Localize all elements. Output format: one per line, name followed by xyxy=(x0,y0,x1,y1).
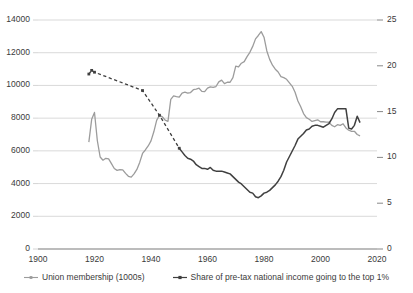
legend-label-top1-share: Share of pre-tax national income going t… xyxy=(191,272,389,282)
series-line-top1-share-dashed xyxy=(89,70,179,148)
series-marker-top1-share xyxy=(87,73,90,76)
x-axis-tick-label: 2000 xyxy=(301,255,341,264)
line-marker-icon xyxy=(24,273,38,282)
chart-container: 02000400060008000100001200014000 0510152… xyxy=(0,0,413,293)
x-axis-tick-label: 1940 xyxy=(131,255,171,264)
x-axis-tick-label: 1900 xyxy=(18,255,58,264)
legend-item-top1-share[interactable]: Share of pre-tax national income going t… xyxy=(173,272,389,282)
y-axis-right-tick-label: 15 xyxy=(387,107,396,116)
gridlines xyxy=(38,20,377,249)
y-axis-left-tick-label: 14000 xyxy=(0,15,30,24)
axis-ticks xyxy=(33,20,383,249)
y-axis-right-tick-label: 25 xyxy=(387,15,396,24)
series-marker-top1-share xyxy=(158,114,161,117)
y-axis-left-tick-label: 6000 xyxy=(0,146,30,155)
legend-label-union-membership: Union membership (1000s) xyxy=(42,272,145,282)
x-axis-tick-label: 2020 xyxy=(357,255,397,264)
y-axis-left-tick-label: 0 xyxy=(0,244,30,253)
y-axis-right-tick-label: 5 xyxy=(387,198,392,207)
legend-item-union-membership[interactable]: Union membership (1000s) xyxy=(24,272,145,282)
y-axis-right-tick-label: 20 xyxy=(387,61,396,70)
series-marker-top1-share xyxy=(141,89,144,92)
chart-plot-area xyxy=(0,0,413,293)
chart-legend: Union membership (1000s) Share of pre-ta… xyxy=(0,268,413,286)
series-marker-top1-share xyxy=(90,69,93,72)
series-marker-top1-share xyxy=(93,71,96,74)
y-axis-left-tick-label: 2000 xyxy=(0,211,30,220)
data-series xyxy=(87,32,360,198)
x-axis-tick-label: 1960 xyxy=(188,255,228,264)
y-axis-right-tick-label: 0 xyxy=(387,244,392,253)
y-axis-left-tick-label: 12000 xyxy=(0,48,30,57)
y-axis-right-tick-label: 10 xyxy=(387,152,396,161)
series-line-union-membership xyxy=(89,32,360,178)
y-axis-left-tick-label: 4000 xyxy=(0,179,30,188)
series-line-top1-share xyxy=(179,109,360,198)
x-axis-tick-label: 1980 xyxy=(244,255,284,264)
y-axis-left-tick-label: 10000 xyxy=(0,80,30,89)
line-marker-icon xyxy=(173,273,187,282)
y-axis-left-tick-label: 8000 xyxy=(0,113,30,122)
x-axis-tick-label: 1920 xyxy=(75,255,115,264)
